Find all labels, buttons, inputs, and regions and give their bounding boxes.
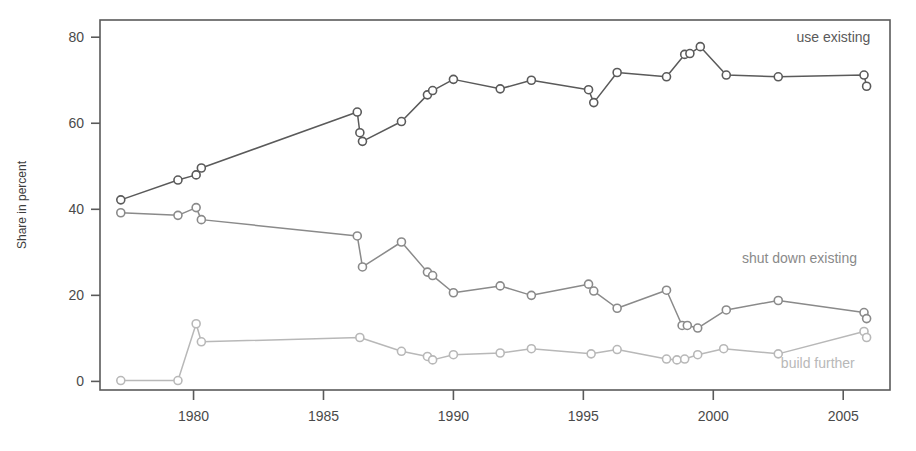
- data-point-marker: [686, 50, 694, 58]
- chart-container: 020406080 198019851990199520002005 use e…: [0, 0, 916, 451]
- data-point-marker: [449, 289, 457, 297]
- y-tick-label: 80: [68, 29, 84, 45]
- data-point-marker: [429, 356, 437, 364]
- data-point-marker: [694, 324, 702, 332]
- y-tick-label: 60: [68, 115, 84, 131]
- data-point-marker: [429, 272, 437, 280]
- x-tick-label: 1985: [308, 408, 339, 424]
- line-chart: 020406080 198019851990199520002005 use e…: [0, 0, 916, 451]
- data-point-marker: [722, 306, 730, 314]
- y-tick-label: 40: [68, 201, 84, 217]
- data-point-marker: [696, 43, 704, 51]
- data-point-marker: [613, 68, 621, 76]
- x-tick-label: 2005: [828, 408, 859, 424]
- data-point-marker: [117, 196, 125, 204]
- data-point-marker: [613, 346, 621, 354]
- data-point-marker: [587, 350, 595, 358]
- data-point-marker: [356, 129, 364, 137]
- data-point-marker: [174, 176, 182, 184]
- data-point-marker: [496, 282, 504, 290]
- data-point-marker: [774, 73, 782, 81]
- data-point-marker: [496, 349, 504, 357]
- data-point-marker: [356, 334, 364, 342]
- x-tick-label: 2000: [698, 408, 729, 424]
- x-tick-label: 1995: [568, 408, 599, 424]
- data-point-marker: [496, 85, 504, 93]
- data-point-marker: [397, 118, 405, 126]
- data-point-marker: [117, 209, 125, 217]
- series-label-build-further: build further: [781, 355, 855, 371]
- data-point-marker: [527, 76, 535, 84]
- data-point-marker: [860, 71, 868, 79]
- series-label-use-existing: use existing: [796, 29, 870, 45]
- data-point-marker: [449, 75, 457, 83]
- data-point-marker: [774, 297, 782, 305]
- data-point-marker: [353, 108, 361, 116]
- data-point-marker: [174, 377, 182, 385]
- data-point-marker: [429, 87, 437, 95]
- data-point-marker: [681, 355, 689, 363]
- data-point-marker: [720, 345, 728, 353]
- data-point-marker: [722, 71, 730, 79]
- x-tick-label: 1990: [438, 408, 469, 424]
- chart-background: [0, 0, 916, 451]
- data-point-marker: [527, 291, 535, 299]
- data-point-marker: [449, 351, 457, 359]
- data-point-marker: [527, 345, 535, 353]
- data-point-marker: [590, 99, 598, 107]
- data-point-marker: [353, 232, 361, 240]
- y-tick-label: 20: [68, 287, 84, 303]
- data-point-marker: [358, 263, 366, 271]
- data-point-marker: [397, 347, 405, 355]
- data-point-marker: [197, 216, 205, 224]
- data-point-marker: [192, 320, 200, 328]
- data-point-marker: [694, 351, 702, 359]
- data-point-marker: [663, 286, 671, 294]
- data-point-marker: [613, 304, 621, 312]
- data-point-marker: [683, 321, 691, 329]
- data-point-marker: [192, 204, 200, 212]
- data-point-marker: [358, 137, 366, 145]
- data-point-marker: [585, 86, 593, 94]
- data-point-marker: [174, 211, 182, 219]
- data-point-marker: [197, 338, 205, 346]
- data-point-marker: [863, 334, 871, 342]
- x-tick-label: 1980: [178, 408, 209, 424]
- data-point-marker: [863, 315, 871, 323]
- data-point-marker: [397, 238, 405, 246]
- data-point-marker: [590, 287, 598, 295]
- data-point-marker: [673, 356, 681, 364]
- y-tick-label: 0: [76, 373, 84, 389]
- data-point-marker: [663, 355, 671, 363]
- data-point-marker: [663, 73, 671, 81]
- data-point-marker: [863, 82, 871, 90]
- series-label-shut-down-existing: shut down existing: [742, 250, 857, 266]
- data-point-marker: [197, 164, 205, 172]
- data-point-marker: [117, 377, 125, 385]
- y-axis-title: Share in percent: [15, 160, 29, 249]
